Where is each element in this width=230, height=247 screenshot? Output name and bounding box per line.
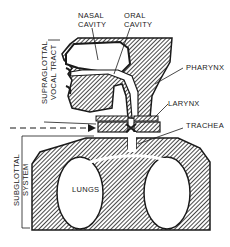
label-lungs: LUNGS xyxy=(72,185,99,194)
label-trachea: TRACHEA xyxy=(186,121,224,130)
larynx-trachea xyxy=(96,116,160,132)
torso-region xyxy=(32,132,210,230)
label-supraglottal-1: SUPRAGLOTTAL xyxy=(40,41,49,104)
nasal-cavity xyxy=(66,42,130,72)
label-subglottal-1: SUBGLOTTAL xyxy=(12,154,21,206)
right-lung xyxy=(144,157,190,229)
speech-anatomy-diagram: NASAL CAVITY ORAL CAVITY PHARYNX LARYNX … xyxy=(0,0,230,247)
label-oral-cavity-2: CAVITY xyxy=(124,20,152,29)
trachea-airway xyxy=(128,132,136,152)
label-oral-cavity-1: ORAL xyxy=(124,11,146,20)
label-supraglottal-2: VOCAL TRACT xyxy=(49,44,58,100)
label-larynx: LARYNX xyxy=(168,99,200,108)
airflow-arrow xyxy=(10,124,96,132)
label-nasal-cavity-2: CAVITY xyxy=(78,20,106,29)
label-pharynx: PHARYNX xyxy=(186,63,224,72)
lips xyxy=(66,68,71,94)
label-nasal-cavity-1: NASAL xyxy=(78,11,104,20)
head-region xyxy=(62,38,172,118)
label-subglottal-2: SYSTEM xyxy=(21,163,30,196)
